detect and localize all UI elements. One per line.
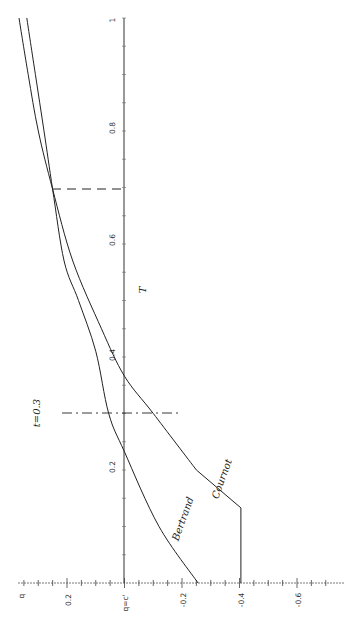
t-tick-1: 1 [108, 17, 117, 22]
q-tick-neg0.6: -0.6 [294, 592, 303, 607]
q-axis-label: q [17, 593, 26, 598]
t-tick-0.6: 0.6 [108, 234, 117, 246]
q-tick-baseline: q=c' [121, 594, 130, 611]
t-tick-0.2: 0.2 [108, 461, 117, 473]
t-tick-0.8: 0.8 [108, 122, 117, 134]
q-tick-neg0.4: -0.4 [237, 592, 246, 607]
bertrand-label: Bertrand [169, 495, 195, 543]
q-tick-0.2: 0.2 [64, 594, 73, 606]
cournot-label: Cournot [209, 457, 234, 501]
q-tick-neg0.2: -0.2 [179, 592, 188, 607]
bertrand-curve [27, 18, 198, 583]
q-axis: q 0.2 q=c' -0.2 -0.4 -0.6 [17, 578, 345, 612]
t-axis-label: T [137, 285, 148, 293]
t-axis: 1 0.8 0.6 0.4 0.2 T [108, 17, 148, 583]
t-marker-label: t=0.3 [31, 399, 42, 427]
equilibrium-chart: q 0.2 q=c' -0.2 -0.4 -0.6 1 0.8 0.6 0.4 … [0, 0, 357, 626]
cournot-curve [19, 18, 241, 583]
